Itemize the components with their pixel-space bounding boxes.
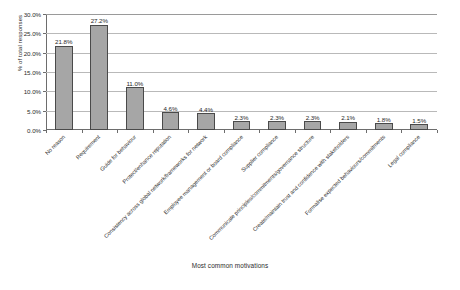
bar: 1.5% <box>410 124 428 130</box>
bar-value-label: 1.8% <box>377 116 391 123</box>
y-tick-mark <box>43 91 46 92</box>
x-tick-mark <box>46 130 47 133</box>
y-tick-mark <box>43 33 46 34</box>
x-tick-mark <box>330 130 331 133</box>
gridline <box>46 14 437 15</box>
x-category-label: Formalise expected behaviours/commitment… <box>240 134 386 280</box>
bar: 1.8% <box>375 123 393 130</box>
x-tick-mark <box>82 130 83 133</box>
y-tick-label: 10.0% <box>24 88 41 95</box>
bar: 2.3% <box>304 121 322 130</box>
y-axis-title: % of total responses <box>17 0 23 93</box>
x-tick-mark <box>366 130 367 133</box>
bar-value-label: 2.3% <box>235 114 249 121</box>
y-tick-label: 0.0% <box>27 127 41 134</box>
y-tick-mark <box>43 53 46 54</box>
bar-value-label: 27.2% <box>91 17 108 24</box>
bar: 2.3% <box>268 121 286 130</box>
y-tick-label: 25.0% <box>24 30 41 37</box>
bar-value-label: 1.5% <box>412 117 426 124</box>
bar: 27.2% <box>90 25 108 130</box>
x-tick-mark <box>259 130 260 133</box>
bar: 2.1% <box>339 122 357 130</box>
x-tick-mark <box>153 130 154 133</box>
x-tick-mark <box>295 130 296 133</box>
bar: 4.4% <box>197 113 215 130</box>
x-tick-mark <box>224 130 225 133</box>
y-tick-mark <box>43 14 46 15</box>
y-tick-label: 20.0% <box>24 49 41 56</box>
bar-chart: % of total responses 0.0%5.0%10.0%15.0%2… <box>0 0 460 290</box>
bar: 2.3% <box>233 121 251 130</box>
y-tick-mark <box>43 72 46 73</box>
x-tick-mark <box>437 130 438 133</box>
bar-value-label: 2.3% <box>306 114 320 121</box>
x-tick-mark <box>117 130 118 133</box>
y-tick-label: 15.0% <box>24 69 41 76</box>
x-tick-mark <box>188 130 189 133</box>
x-axis-title: Most common motivations <box>0 262 460 269</box>
bar-value-label: 2.1% <box>341 114 355 121</box>
bar: 21.8% <box>55 46 73 130</box>
y-tick-label: 5.0% <box>27 107 41 114</box>
bar: 4.6% <box>162 112 180 130</box>
x-tick-mark <box>401 130 402 133</box>
bar-value-label: 11.0% <box>126 80 143 87</box>
y-tick-mark <box>43 111 46 112</box>
bar-value-label: 21.8% <box>55 38 72 45</box>
y-tick-label: 30.0% <box>24 11 41 18</box>
bar-value-label: 2.3% <box>270 114 284 121</box>
plot-area: 0.0%5.0%10.0%15.0%20.0%25.0%30.0% 21.8%2… <box>46 14 437 130</box>
bar-value-label: 4.4% <box>199 106 213 113</box>
bar: 11.0% <box>126 87 144 130</box>
bar-value-label: 4.6% <box>163 105 177 112</box>
